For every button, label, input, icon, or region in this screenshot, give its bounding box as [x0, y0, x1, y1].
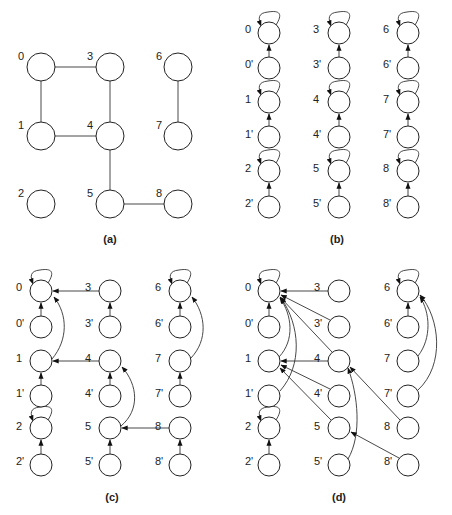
node-1p [258, 385, 280, 407]
label-3p: 3' [314, 317, 322, 329]
label-7p: 7' [384, 387, 392, 399]
node-8 [164, 190, 192, 218]
label-2: 2 [245, 162, 251, 174]
node-8p [169, 454, 191, 476]
label-0: 0 [245, 281, 251, 293]
label-8p: 8' [155, 455, 163, 467]
label-7p: 7' [155, 387, 163, 399]
label-3: 3 [313, 23, 319, 35]
label-5: 5 [314, 420, 320, 432]
node-3 [99, 280, 121, 302]
node-8p [397, 454, 419, 476]
label-1: 1 [245, 93, 251, 105]
node-3p [328, 316, 350, 338]
panel-c: 0 0' 1 1' 2 2' 3 3' 4 4' 5 5' 6 6' 7 7' … [16, 270, 203, 503]
label-7: 7 [156, 119, 162, 131]
node-6p [397, 316, 419, 338]
node-4p [328, 385, 350, 407]
label-1p: 1' [16, 387, 24, 399]
node-8p [397, 196, 419, 218]
label-1: 1 [245, 352, 251, 364]
label-6p: 6' [155, 317, 163, 329]
node-7p [397, 126, 419, 148]
label-5p: 5' [314, 455, 322, 467]
node-3 [328, 22, 350, 44]
node-4 [99, 350, 121, 372]
node-5 [328, 160, 350, 182]
label-8p: 8' [384, 455, 392, 467]
node-8 [169, 417, 191, 439]
node-1 [258, 350, 280, 372]
edge-5-4 [121, 367, 135, 426]
node-2p [30, 454, 52, 476]
label-6: 6 [384, 281, 390, 293]
label-4: 4 [87, 119, 93, 131]
node-4 [328, 91, 350, 113]
node-2p [258, 196, 280, 218]
label-6: 6 [156, 50, 162, 62]
edge-1-0 [279, 298, 290, 357]
edge-7-6 [191, 297, 203, 358]
node-0p [258, 57, 280, 79]
label-8: 8 [155, 420, 161, 432]
node-2 [258, 160, 280, 182]
label-0: 0 [18, 50, 24, 62]
label-2: 2 [18, 187, 24, 199]
label-0p: 0' [245, 58, 253, 70]
node-7p [169, 385, 191, 407]
node-5 [99, 417, 121, 439]
node-4 [328, 350, 350, 372]
node-8 [397, 160, 419, 182]
label-8: 8 [156, 187, 162, 199]
label-7: 7 [155, 352, 161, 364]
label-7: 7 [383, 93, 389, 105]
node-4 [96, 122, 124, 150]
node-3p [328, 57, 350, 79]
edge-8-4 [350, 367, 400, 420]
node-5 [96, 190, 124, 218]
node-2 [27, 190, 55, 218]
panel-a-nodes [27, 53, 192, 218]
label-1: 1 [18, 119, 24, 131]
label-6p: 6' [384, 317, 392, 329]
node-0 [258, 22, 280, 44]
node-5p [328, 454, 350, 476]
label-8p: 8' [383, 197, 391, 209]
node-6 [164, 53, 192, 81]
label-3p: 3' [85, 317, 93, 329]
node-1 [27, 122, 55, 150]
edge-5-1 [280, 368, 331, 420]
label-0p: 0' [245, 317, 253, 329]
label-3: 3 [87, 50, 93, 62]
union-find-diagram: 0 1 2 3 4 5 6 7 8 (a) [0, 0, 452, 515]
label-0: 0 [245, 23, 251, 35]
node-7 [397, 91, 419, 113]
label-0p: 0' [16, 317, 24, 329]
node-5p [328, 196, 350, 218]
label-8: 8 [383, 162, 389, 174]
caption-d: (d) [332, 491, 346, 503]
label-6p: 6' [383, 58, 391, 70]
label-4p: 4' [313, 128, 321, 140]
label-3: 3 [314, 281, 320, 293]
label-8: 8 [384, 420, 390, 432]
label-7p: 7' [383, 128, 391, 140]
edge-5p-4 [348, 368, 357, 459]
label-6: 6 [155, 281, 161, 293]
panel-d-nodes [258, 280, 419, 476]
label-5p: 5' [85, 455, 93, 467]
label-4: 4 [314, 352, 320, 364]
label-7: 7 [384, 352, 390, 364]
node-5p [99, 454, 121, 476]
node-0 [30, 280, 52, 302]
panel-a: 0 1 2 3 4 5 6 7 8 (a) [18, 50, 192, 245]
edge-7-6 [418, 297, 428, 356]
label-5: 5 [87, 187, 93, 199]
label-4: 4 [313, 93, 319, 105]
node-0 [27, 53, 55, 81]
node-5 [328, 417, 350, 439]
node-7 [169, 350, 191, 372]
label-5: 5 [313, 162, 319, 174]
label-5: 5 [85, 420, 91, 432]
label-2p: 2' [245, 197, 253, 209]
